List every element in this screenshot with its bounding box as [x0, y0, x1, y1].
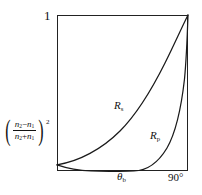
rs-symbol: R	[114, 99, 121, 111]
fraction-denominator: n2+n1	[13, 131, 37, 141]
square-exponent: 2	[46, 118, 50, 126]
y-axis-max-label: 1	[44, 9, 51, 22]
curve-rs	[57, 15, 188, 165]
x-axis-max-label: 90°	[168, 172, 183, 183]
rp-subscript: p	[157, 135, 160, 142]
y-axis-origin-label: ( n2−n1 n2+n1 ) 2	[3, 119, 50, 141]
denominator-n1-subscript: 1	[32, 135, 35, 141]
curve-label-rs: Rs	[114, 100, 123, 112]
curves-layer	[57, 15, 188, 171]
rs-subscript: s	[121, 105, 124, 112]
reflectance-fraction: n2−n1 n2+n1	[13, 119, 37, 141]
numerator-n1-subscript: 1	[32, 123, 35, 129]
x-axis-brewster-label: θb	[117, 171, 126, 183]
brewster-subscript: b	[122, 176, 125, 183]
reflectance-figure: 1 ( n2−n1 n2+n1 ) 2 Rs Rp θb 90°	[0, 0, 202, 195]
fraction-numerator: n2−n1	[13, 119, 37, 129]
rp-symbol: R	[150, 129, 157, 141]
curve-label-rp: Rp	[150, 130, 160, 142]
curve-rp	[57, 15, 188, 171]
